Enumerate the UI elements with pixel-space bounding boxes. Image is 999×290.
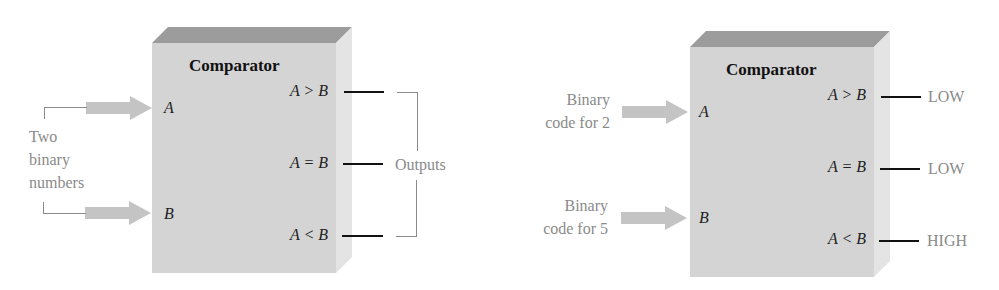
input-pin-b: B (164, 205, 174, 223)
box-top-face (690, 31, 890, 47)
output-line-less (342, 235, 383, 237)
output-label-less: A < B (806, 230, 866, 248)
input-pin-a: A (164, 99, 174, 117)
output-state-equal: LOW (928, 158, 964, 179)
output-line-less (879, 240, 919, 242)
output-state-greater: LOW (928, 86, 964, 107)
input-pin-b: B (699, 209, 709, 227)
comparator-title: Comparator (189, 56, 280, 76)
input-b-annotation-line2: code for 5 (520, 218, 608, 239)
output-label-less: A < B (268, 226, 328, 244)
output-label-equal: A = B (806, 158, 866, 176)
output-label-equal: A = B (268, 154, 328, 172)
comparator-title: Comparator (726, 60, 817, 80)
output-label-greater: A > B (268, 82, 328, 100)
output-bracket-top (397, 92, 418, 151)
arrow-right-icon (86, 96, 152, 120)
output-line-greater (344, 91, 384, 93)
input-annotation-line3: numbers (29, 172, 84, 193)
output-line-equal (880, 168, 920, 170)
arrow-right-icon (621, 206, 687, 230)
arrow-right-icon (85, 201, 151, 225)
output-line-equal (343, 163, 383, 165)
input-annotation-line2: binary (29, 149, 70, 170)
output-label-greater: A > B (806, 86, 866, 104)
input-pin-a: A (699, 103, 709, 121)
input-b-annotation-line1: Binary (520, 195, 608, 216)
output-line-greater (881, 96, 921, 98)
input-annotation-line1: Two (29, 126, 57, 147)
input-bracket-top (44, 107, 87, 119)
input-a-annotation-line1: Binary (520, 89, 610, 110)
input-bracket-bottom (43, 202, 86, 214)
box-top-face (152, 27, 352, 43)
input-a-annotation-line2: code for 2 (520, 112, 610, 133)
output-bracket-bottom (396, 180, 417, 237)
arrow-right-icon (622, 100, 688, 124)
outputs-annotation: Outputs (395, 154, 446, 175)
output-state-less: HIGH (927, 230, 967, 251)
